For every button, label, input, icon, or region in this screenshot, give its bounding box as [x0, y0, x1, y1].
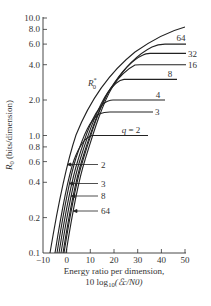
curve-r0-star — [50, 27, 185, 253]
arrow-label-3: 3 — [101, 179, 106, 189]
y-tick-label: 6.0 — [29, 39, 41, 49]
y-tick-label: 0.4 — [29, 177, 41, 187]
y-tick-label: 0.6 — [29, 157, 41, 167]
curve-q8 — [61, 79, 177, 253]
arrow-label-64: 64 — [101, 206, 111, 216]
label-q2: q = 2 — [122, 125, 141, 135]
y-tick-label: 2.0 — [29, 95, 41, 105]
x-tick-label: 10 — [86, 255, 96, 265]
y-tick-label: 0.8 — [29, 142, 41, 152]
curve-q16 — [63, 65, 186, 253]
label-q8: 8 — [168, 69, 173, 79]
x-tick-label: 50 — [181, 255, 191, 265]
label-q4: 4 — [156, 90, 161, 100]
x-ticks — [67, 249, 185, 253]
curves — [50, 27, 186, 253]
label-r0-star: R*0 — [87, 76, 97, 90]
label-q64: 64 — [177, 33, 187, 43]
x-tick-label: 30 — [133, 255, 143, 265]
x-tick-label: 20 — [110, 255, 120, 265]
x-tick-labels: −10 0 10 20 30 40 50 — [36, 255, 190, 265]
x-axis-title-line1: Energy ratio per dimension, — [64, 266, 164, 276]
x-axis-title-line2: 10 log10(ℰc/N0) — [85, 277, 142, 288]
y-tick-label: 4.0 — [29, 60, 41, 70]
y-tick-label: 0.2 — [29, 213, 40, 223]
y-ticks — [43, 18, 47, 218]
y-tick-label: 10.0 — [24, 13, 40, 23]
arrow-label-8: 8 — [101, 191, 106, 201]
arrow-label-2: 2 — [101, 160, 106, 170]
x-tick-label: −10 — [36, 255, 51, 265]
label-q16: 16 — [188, 60, 198, 70]
x-tick-label: 40 — [157, 255, 167, 265]
label-q3: 3 — [155, 107, 160, 117]
chart: 10.0 8.0 6.0 4.0 2.0 1.0 0.8 0.6 0.4 0.2… — [0, 0, 211, 306]
y-tick-label: 8.0 — [29, 24, 41, 34]
x-tick-label: 0 — [64, 255, 69, 265]
label-q32: 32 — [188, 49, 197, 59]
y-axis-title: R0 (bits/dimension) — [4, 100, 15, 171]
y-tick-label: 1.0 — [29, 131, 41, 141]
y-tick-labels: 10.0 8.0 6.0 4.0 2.0 1.0 0.8 0.6 0.4 0.2… — [24, 13, 40, 258]
